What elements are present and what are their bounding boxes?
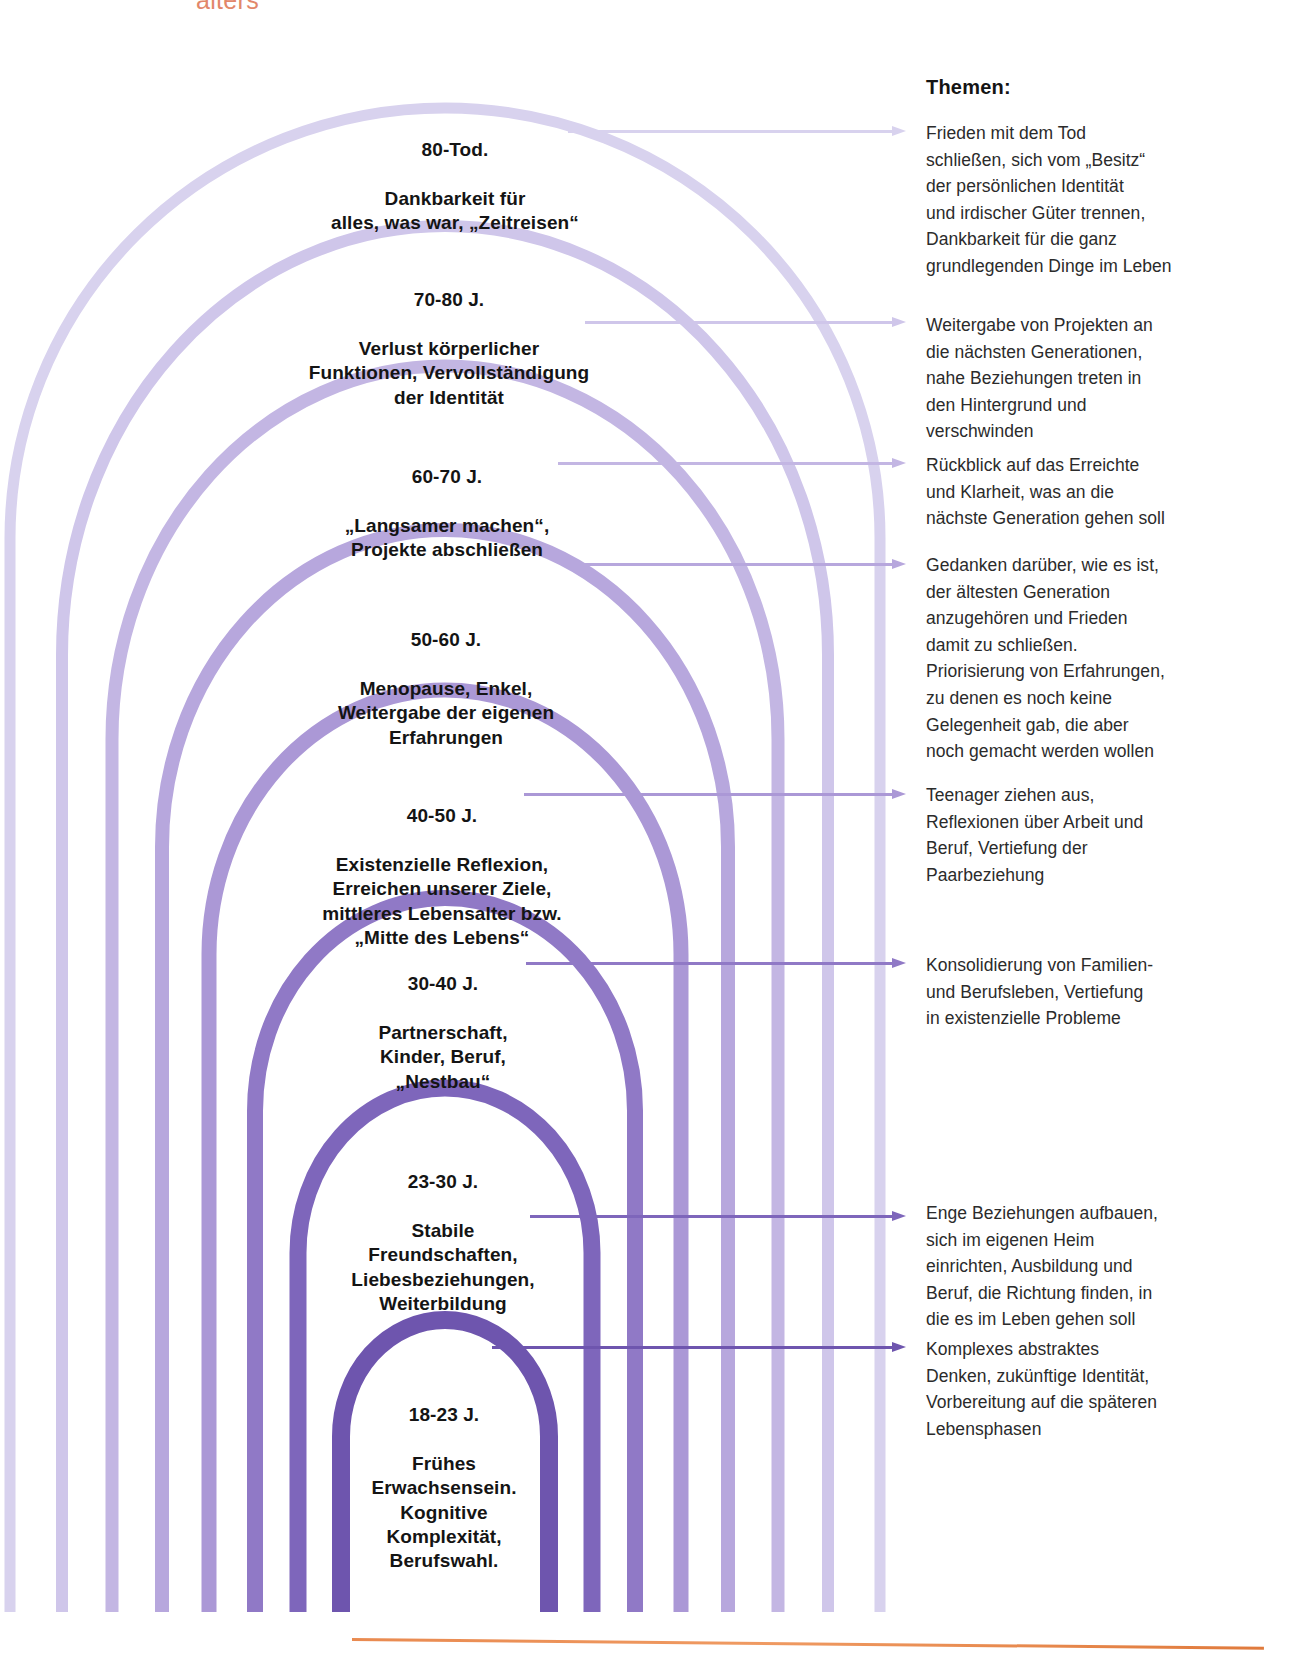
theme-text-80-tod: Frieden mit dem Tod schließen, sich vom … [926,120,1236,280]
arch-desc-30-40: Partnerschaft, Kinder, Beruf, „Nestbau“ [273,1021,613,1094]
theme-text-23-30: Enge Beziehungen aufbauen, sich im eigen… [926,1200,1236,1333]
theme-text-40-50: Teenager ziehen aus, Reflexionen über Ar… [926,782,1236,888]
arch-desc-60-70: „Langsamer machen“, Projekte abschließen [257,514,637,563]
theme-text-70-80: Weitergabe von Projekten an die nächsten… [926,312,1236,445]
arch-label-23-30: 23-30 J. Stabile Freundschaften, Liebesb… [273,1146,613,1341]
theme-text-18-23: Komplexes abstraktes Denken, zukünftige … [926,1336,1236,1442]
arch-label-18-23: 18-23 J. Frühes Erwachsensein. Kognitive… [284,1379,604,1598]
arch-age-18-23: 18-23 J. [284,1403,604,1427]
connector-arrow-18-23 [492,1342,906,1352]
theme-text-60-70: Rückblick auf das Erreichte und Klarheit… [926,452,1236,532]
arch-age-80-tod: 80-Tod. [245,138,665,162]
themen-column: Themen: [926,76,1244,121]
themen-heading: Themen: [926,76,1244,99]
theme-text-50-60: Gedanken darüber, wie es ist, der ältest… [926,552,1236,765]
arch-desc-40-50: Existenzielle Reflexion, Erreichen unser… [252,853,632,950]
connector-arrow-40-50 [524,789,906,799]
connector-arrow-70-80 [585,317,906,327]
arch-desc-23-30: Stabile Freundschaften, Liebesbeziehunge… [273,1219,613,1316]
arch-age-30-40: 30-40 J. [273,972,613,996]
arch-age-50-60: 50-60 J. [256,628,636,652]
arch-age-60-70: 60-70 J. [257,465,637,489]
arch-age-23-30: 23-30 J. [273,1170,613,1194]
arch-label-30-40: 30-40 J. Partnerschaft, Kinder, Beruf, „… [273,948,613,1118]
connector-arrow-23-30 [530,1211,906,1221]
theme-text-30-40: Konsolidierung von Familien- und Berufsl… [926,952,1236,1032]
connector-arrow-60-70 [558,458,906,468]
arch-age-70-80: 70-80 J. [229,288,669,312]
arch-label-40-50: 40-50 J. Existenzielle Reflexion, Erreic… [252,780,632,975]
connector-arrow-30-40 [526,958,906,968]
diagram-canvas: alters 80-Tod. Dankbarkeit für alles, wa… [0,0,1308,1664]
arch-label-50-60: 50-60 J. Menopause, Enkel, Weitergabe de… [256,604,636,774]
connector-arrow-80-tod [568,126,906,136]
arch-desc-18-23: Frühes Erwachsensein. Kognitive Komplexi… [284,1452,604,1574]
arch-age-40-50: 40-50 J. [252,804,632,828]
connector-arrow-50-60 [580,559,906,569]
arch-label-70-80: 70-80 J. Verlust körperlicher Funktionen… [229,264,669,434]
arch-desc-70-80: Verlust körperlicher Funktionen, Vervoll… [229,337,669,410]
arch-desc-80-tod: Dankbarkeit für alles, was war, „Zeitrei… [245,187,665,236]
arch-desc-50-60: Menopause, Enkel, Weitergabe der eigenen… [256,677,636,750]
